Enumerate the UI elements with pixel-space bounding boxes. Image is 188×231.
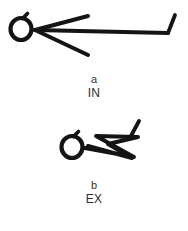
panel-label-in: IN: [0, 87, 188, 100]
right-hook-ex: [131, 121, 139, 136]
panel-letter-ex: b: [0, 180, 188, 192]
figure-panel-ex: b EX: [0, 112, 188, 231]
upper-arm-in: [35, 16, 88, 30]
panel-letter-in: a: [0, 74, 188, 86]
long-arm-in: [35, 30, 168, 33]
panel-label-ex: EX: [0, 193, 188, 206]
caption-in: a IN: [0, 74, 188, 99]
lower-arm-in: [35, 30, 88, 55]
stick-figure-inspiration: [0, 0, 188, 80]
head-circle-ex: [62, 136, 83, 158]
right-hook-in: [168, 15, 175, 33]
head-circle-in: [11, 18, 32, 40]
caption-ex: b EX: [0, 180, 188, 205]
zigzag-body-ex: [85, 136, 138, 158]
stick-figure-expiration: [0, 112, 188, 184]
figure-panel-in: a IN: [0, 0, 188, 112]
figure-root: a IN b EX: [0, 0, 188, 231]
